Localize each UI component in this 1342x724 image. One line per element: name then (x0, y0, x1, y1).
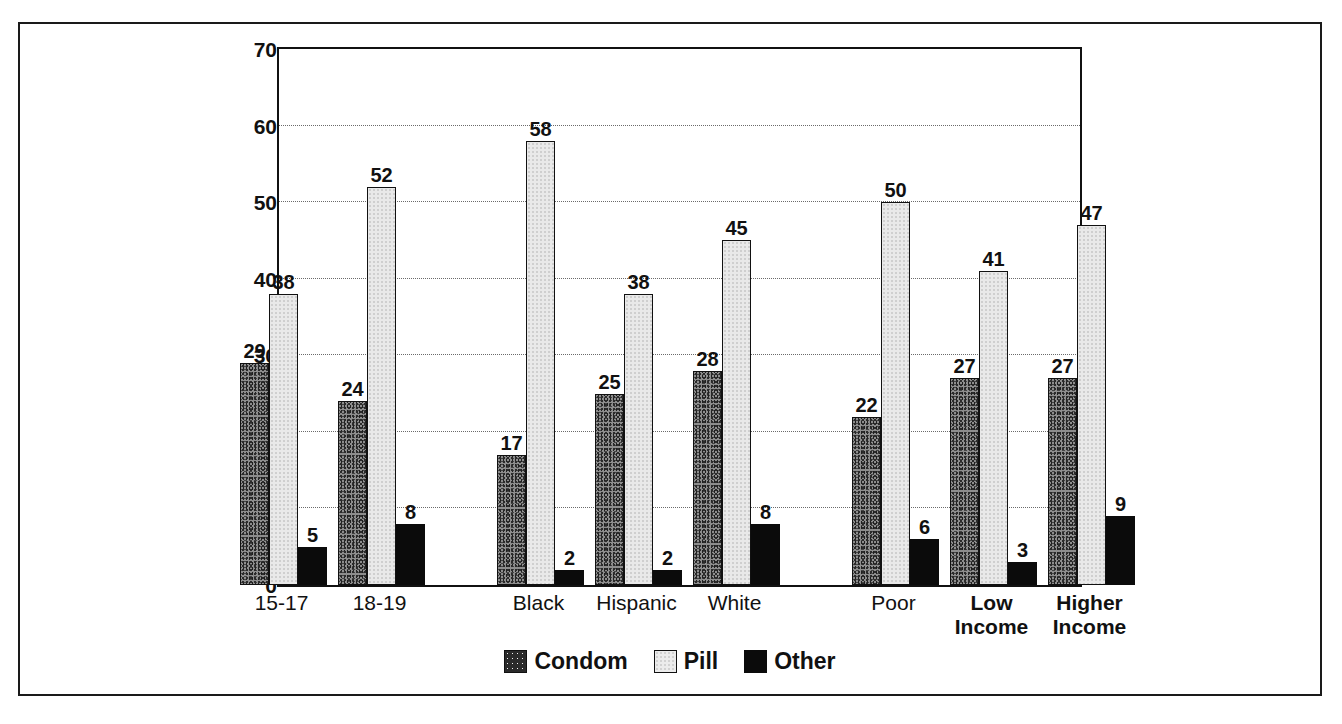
bar: 58 (526, 141, 555, 585)
legend-label: Pill (684, 650, 719, 673)
figure-frame: 010203040506070 293852452817582253822845… (18, 22, 1322, 696)
y-tick-label-50: 50 (231, 192, 277, 213)
bar: 8 (396, 524, 425, 585)
bar-value-label: 2 (564, 548, 575, 568)
bar-value-label: 17 (500, 433, 522, 453)
x-tick-label: Low Income (955, 591, 1029, 638)
bar: 24 (338, 401, 367, 585)
bar-value-label: 50 (884, 180, 906, 200)
gridline-60 (279, 125, 1080, 126)
x-tick-label: 18-19 (353, 591, 407, 615)
bar: 28 (693, 371, 722, 585)
bar-value-label: 38 (627, 272, 649, 292)
legend-swatch-pill-icon (654, 650, 677, 673)
bar-value-label: 8 (405, 502, 416, 522)
bar-value-label: 3 (1017, 540, 1028, 560)
bar-value-label: 6 (919, 517, 930, 537)
bar-value-label: 27 (1051, 356, 1073, 376)
bar: 22 (852, 417, 881, 585)
legend-swatch-other-icon (744, 650, 767, 673)
bar-value-label: 9 (1115, 494, 1126, 514)
bar: 41 (979, 271, 1008, 585)
bar: 27 (950, 378, 979, 585)
bar: 38 (269, 294, 298, 585)
gridline-50 (279, 201, 1080, 202)
bar-value-label: 24 (341, 379, 363, 399)
bar: 6 (910, 539, 939, 585)
bar-value-label: 2 (662, 548, 673, 568)
plot-area: 2938524528175822538228458225062741327479 (277, 47, 1082, 587)
bar-value-label: 25 (598, 372, 620, 392)
bar-value-label: 29 (243, 341, 265, 361)
bar-value-label: 5 (307, 525, 318, 545)
bar: 47 (1077, 225, 1106, 585)
legend-swatch-condom-icon (504, 650, 527, 673)
bar: 8 (751, 524, 780, 585)
bar-value-label: 45 (725, 218, 747, 238)
legend-label: Other (774, 650, 835, 673)
legend-label: Condom (534, 650, 627, 673)
x-tick-label: Higher Income (1053, 591, 1127, 638)
gridline-40 (279, 278, 1080, 279)
x-axis: 15-1718-19BlackHispanicWhitePoorLow Inco… (277, 591, 1082, 651)
bar-value-label: 47 (1080, 203, 1102, 223)
x-tick-label: White (708, 591, 762, 615)
bar: 45 (722, 240, 751, 585)
bar-value-label: 28 (696, 349, 718, 369)
bar: 3 (1008, 562, 1037, 585)
chart-legend: CondomPillOther (20, 650, 1320, 673)
bar: 9 (1106, 516, 1135, 585)
x-tick-label: Black (513, 591, 564, 615)
legend-item: Pill (654, 650, 719, 673)
y-tick-label-60: 60 (231, 115, 277, 136)
bar-value-label: 52 (370, 165, 392, 185)
bar: 52 (367, 187, 396, 585)
x-tick-label: Hispanic (596, 591, 677, 615)
bar-value-label: 22 (855, 395, 877, 415)
bar: 38 (624, 294, 653, 585)
legend-item: Other (744, 650, 835, 673)
bar-value-label: 27 (953, 356, 975, 376)
bar: 2 (555, 570, 584, 585)
bar: 2 (653, 570, 682, 585)
bar: 25 (595, 394, 624, 585)
bar: 5 (298, 547, 327, 585)
bar-value-label: 8 (760, 502, 771, 522)
bar-value-label: 41 (982, 249, 1004, 269)
bar: 17 (497, 455, 526, 585)
bar-value-label: 58 (529, 119, 551, 139)
y-tick-label-70: 70 (231, 39, 277, 60)
bar-value-label: 38 (272, 272, 294, 292)
x-tick-label: 15-17 (255, 591, 309, 615)
bar: 27 (1048, 378, 1077, 585)
bar: 50 (881, 202, 910, 585)
bar: 29 (240, 363, 269, 585)
y-tick-label-40: 40 (231, 268, 277, 289)
x-tick-label: Poor (871, 591, 915, 615)
legend-item: Condom (504, 650, 627, 673)
